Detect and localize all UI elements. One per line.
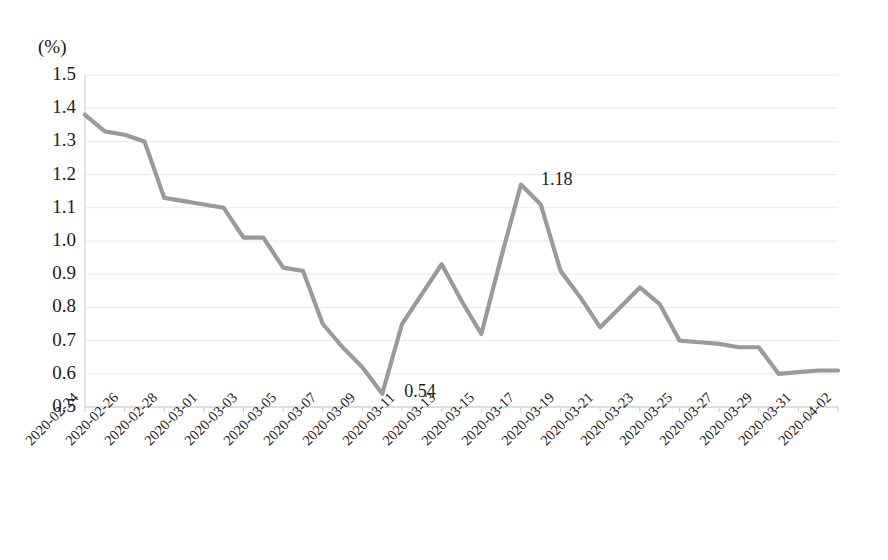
data-point-annotation: 0.54 [404, 381, 436, 402]
y-tick-label: 1.2 [32, 163, 76, 185]
y-tick-label: 1.5 [32, 63, 76, 85]
data-series-line [85, 115, 838, 394]
y-tick-label: 1.3 [32, 129, 76, 151]
data-point-annotation: 1.18 [541, 169, 573, 190]
y-tick-label: 1.0 [32, 229, 76, 251]
plot-area [0, 0, 888, 560]
y-tick-label: 1.4 [32, 96, 76, 118]
y-tick-label: 0.8 [32, 295, 76, 317]
y-tick-label: 0.9 [32, 262, 76, 284]
y-tick-label: 0.6 [32, 362, 76, 384]
y-tick-label: 1.1 [32, 196, 76, 218]
line-chart: (%) 1.51.41.31.21.11.00.90.80.70.60.5 20… [0, 0, 888, 560]
y-tick-label: 0.7 [32, 329, 76, 351]
